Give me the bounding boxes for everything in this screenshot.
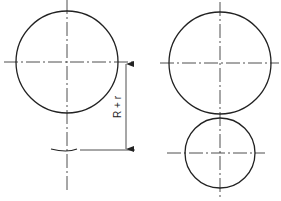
left-figure: R + r xyxy=(4,0,135,192)
dimension-label: R + r xyxy=(112,95,123,118)
circle-tangency-diagram: R + r xyxy=(0,0,281,201)
right-figure xyxy=(160,2,279,199)
small-circle-arc-mark xyxy=(51,149,77,151)
